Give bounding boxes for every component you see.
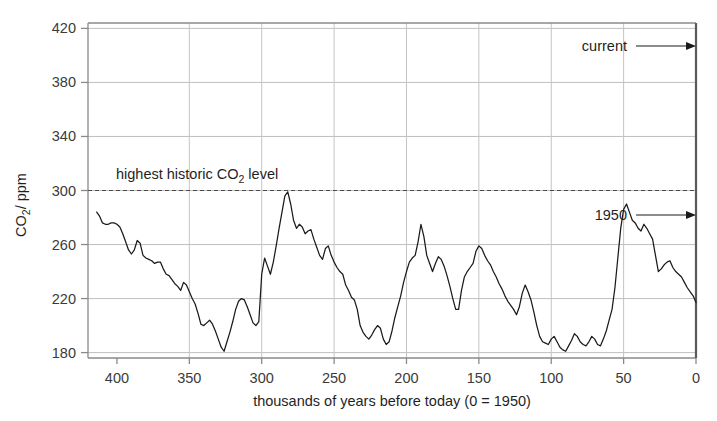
- chart-canvas: 180220260300340380420 400350300250200150…: [0, 0, 717, 421]
- year-1950-arrow-head: [686, 211, 696, 219]
- x-tick-label-50: 50: [616, 370, 632, 386]
- year-1950-label: 1950: [595, 207, 627, 223]
- y-tick-label-220: 220: [52, 291, 76, 307]
- y-tick-labels: 180220260300340380420: [52, 20, 76, 360]
- annotation-highest-historic: highest historic CO2 level: [116, 166, 278, 185]
- x-tick-label-150: 150: [467, 370, 491, 386]
- y-axis-title-tail: / ppm: [13, 173, 29, 209]
- y-tick-marks: [81, 28, 88, 352]
- svg-text:highest historic CO2 level: highest historic CO2 level: [116, 166, 278, 185]
- y-tick-label-180: 180: [52, 345, 76, 361]
- x-tick-label-250: 250: [322, 370, 346, 386]
- current-label: current: [582, 38, 627, 54]
- x-tick-labels: 400350300250200150100500: [105, 370, 700, 386]
- x-tick-label-0: 0: [692, 370, 700, 386]
- x-tick-label-200: 200: [394, 370, 418, 386]
- y-axis-title: CO2/ ppm: [13, 173, 32, 237]
- x-tick-label-350: 350: [177, 370, 201, 386]
- y-axis-title-main: CO: [13, 215, 29, 237]
- annotation-1950: 1950: [595, 207, 696, 223]
- x-tick-label-100: 100: [539, 370, 563, 386]
- y-tick-label-340: 340: [52, 128, 76, 144]
- current-arrow-head: [686, 42, 696, 50]
- y-tick-label-420: 420: [52, 20, 76, 36]
- annotation-current: current: [582, 38, 696, 54]
- highest-historic-label-tail: level: [244, 166, 278, 182]
- y-tick-label-380: 380: [52, 74, 76, 90]
- x-axis-title: thousands of years before today (0 = 195…: [253, 393, 531, 409]
- y-tick-label-300: 300: [52, 183, 76, 199]
- highest-historic-label-main: highest historic CO: [116, 166, 239, 182]
- svg-text:CO2/ ppm: CO2/ ppm: [13, 173, 32, 237]
- x-tick-label-400: 400: [105, 370, 129, 386]
- x-tick-label-300: 300: [250, 370, 274, 386]
- co2-chart: 180220260300340380420 400350300250200150…: [0, 0, 717, 421]
- x-tick-marks: [117, 358, 696, 364]
- y-tick-label-260: 260: [52, 237, 76, 253]
